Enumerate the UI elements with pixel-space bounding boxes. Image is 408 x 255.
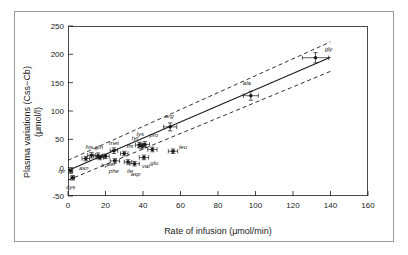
point-label-tyr2: tyr xyxy=(132,135,139,141)
data-point-cys xyxy=(70,176,74,181)
point-label-leu: leu xyxy=(179,144,187,150)
point-label-his: his xyxy=(86,144,94,150)
point-label-ser: ser xyxy=(107,161,115,167)
y-tick-label: 150 xyxy=(34,78,64,87)
data-point-val xyxy=(139,155,148,160)
y-axis-title-line1: Plasma variations (Css−Cb) xyxy=(22,66,32,178)
upper-confidence-band xyxy=(68,42,331,160)
point-label-gln: gln xyxy=(95,144,103,150)
x-tick-label: 20 xyxy=(101,201,110,210)
point-label-val: val xyxy=(142,163,150,169)
figure-container: Plasma variations (Css−Cb) (μmol/l) Rate… xyxy=(0,0,408,255)
x-tick-label: 80 xyxy=(214,201,223,210)
data-point-gly xyxy=(302,53,328,63)
y-tick-label: 50 xyxy=(34,135,64,144)
point-label-arg: arg xyxy=(165,113,174,119)
x-tick-label: 160 xyxy=(361,201,374,210)
x-tick-label: 140 xyxy=(324,201,337,210)
point-label-cys: cys xyxy=(66,184,75,190)
regression-line xyxy=(68,57,331,170)
point-label-gly: gly xyxy=(325,46,333,52)
point-label-pro: pro xyxy=(150,132,159,138)
x-tick-label: 120 xyxy=(286,201,299,210)
x-tick-label: 60 xyxy=(176,201,185,210)
y-tick-label: 250 xyxy=(34,22,64,31)
data-point-thr xyxy=(121,151,129,156)
data-point-met xyxy=(110,148,118,154)
data-point-leu xyxy=(168,149,177,154)
data-point-ala xyxy=(243,91,258,100)
y-tick-label: 100 xyxy=(34,107,64,116)
point-label-asp: asp xyxy=(131,171,141,177)
point-label-glu: glu xyxy=(150,160,158,166)
y-tick-label: -50 xyxy=(34,192,64,201)
data-point-asn xyxy=(82,156,90,161)
data-point-tyr xyxy=(69,169,73,174)
data-point-glu xyxy=(148,147,157,152)
plot-area: -50050100150200250020406080100120140160t… xyxy=(68,26,368,196)
point-label-ala: ala xyxy=(243,80,251,86)
x-tick-label: 100 xyxy=(249,201,262,210)
point-label-phe: phe xyxy=(109,168,119,174)
x-tick-label: 40 xyxy=(139,201,148,210)
point-label-thr: thr xyxy=(127,143,134,149)
point-label-met: met xyxy=(109,140,119,146)
point-label-asn: asn xyxy=(79,165,89,171)
x-tick-label: 0 xyxy=(66,201,70,210)
data-point-his xyxy=(88,152,96,158)
y-tick-label: 200 xyxy=(34,50,64,59)
point-label-tyr: tyr xyxy=(58,168,65,174)
x-axis-title: Rate of infusion (μmol/min) xyxy=(68,226,368,236)
